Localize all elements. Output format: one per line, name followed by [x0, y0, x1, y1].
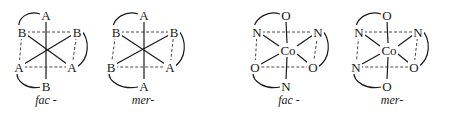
isomer-label: mer-	[132, 93, 154, 107]
atom-lower-right: O	[308, 60, 317, 75]
axial-bond	[286, 57, 287, 80]
atom-lower-right: A	[67, 60, 77, 75]
bond	[263, 35, 279, 46]
atom-top: A	[139, 8, 149, 23]
atom-top: A	[41, 8, 51, 23]
atom-lower-left: A	[14, 60, 24, 75]
isomer-label: mer-	[381, 93, 403, 107]
atom-top: O	[382, 8, 391, 23]
central-metal-co: Co	[280, 43, 295, 58]
axial-bond	[387, 21, 388, 43]
atom-bottom: N	[281, 79, 291, 94]
atom-upper-left: B	[18, 25, 27, 40]
bond	[116, 35, 169, 64]
mer-isomer-ab: A B B B A A mer-	[105, 8, 184, 108]
bond	[297, 54, 308, 63]
atom-lower-right: O	[409, 60, 418, 75]
atom-upper-right: N	[313, 25, 323, 40]
central-metal-co: Co	[381, 43, 396, 58]
atom-top: O	[281, 8, 290, 23]
axial-bond	[387, 57, 388, 80]
atom-bottom: O	[382, 79, 391, 94]
atom-lower-right: A	[165, 60, 175, 75]
atom-upper-left: B	[112, 25, 121, 40]
isomer-label: fac -	[278, 93, 300, 107]
bond	[24, 35, 72, 64]
bond	[398, 35, 413, 46]
atom-lower-left: B	[107, 60, 116, 75]
fac-isomer-co: Co O N N O O N fac -	[249, 8, 328, 108]
axial-bond	[286, 21, 287, 43]
atom-upper-right: N	[413, 25, 423, 40]
isomer-diagram-canvas: A B B A A B fac - A B B B A A mer-	[0, 0, 451, 118]
atom-upper-right: B	[170, 25, 179, 40]
atom-lower-left: N	[351, 60, 361, 75]
bond	[261, 54, 279, 64]
bond	[398, 54, 409, 63]
bond	[362, 54, 380, 64]
atom-upper-left: N	[354, 25, 364, 40]
bond	[297, 35, 313, 46]
atom-bottom: A	[139, 79, 149, 94]
atom-bottom: B	[42, 79, 51, 94]
atom-upper-right: B	[73, 25, 82, 40]
atom-upper-left: N	[252, 25, 262, 40]
bond	[365, 35, 380, 46]
fac-isomer-ab: A B B A A B fac -	[13, 8, 87, 108]
atom-lower-left: O	[250, 60, 259, 75]
isomer-label: fac -	[35, 93, 57, 107]
mer-isomer-co: Co O N N N O O mer-	[350, 8, 428, 108]
